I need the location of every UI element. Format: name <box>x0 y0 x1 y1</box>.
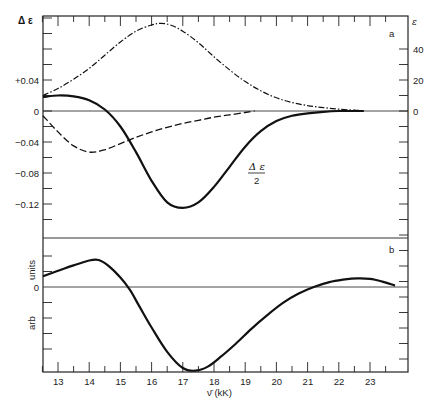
axis-labels: Δ ε ε a b arb units Δ ε 2 ν̄ (kK) 131415… <box>15 15 424 398</box>
x-tick-label: 17 <box>178 376 189 387</box>
right-tick-label-a: 0 <box>413 106 418 117</box>
series-panel-b <box>43 260 395 371</box>
x-axis-title: ν̄ (kK) <box>207 387 232 398</box>
panel-label-b: b <box>389 244 394 255</box>
x-tick-label: 21 <box>303 376 314 387</box>
x-tick-label: 16 <box>147 376 158 387</box>
mcd-chart: Δ ε ε a b arb units Δ ε 2 ν̄ (kK) 131415… <box>0 0 424 402</box>
x-tick-label: 19 <box>240 376 251 387</box>
left-tick-label-b: 0 <box>34 282 39 293</box>
x-tick-label: 14 <box>84 376 95 387</box>
x-tick-label: 15 <box>115 376 126 387</box>
series-dash-dot <box>43 23 364 110</box>
annotation-denominator: 2 <box>254 175 259 186</box>
data-curves <box>43 23 395 370</box>
left-axis-title: Δ ε <box>18 15 33 26</box>
right-axis-title: ε <box>412 17 417 27</box>
x-tick-label: 18 <box>209 376 220 387</box>
x-tick-label: 23 <box>365 376 376 387</box>
x-tick-label: 20 <box>271 376 282 387</box>
left-tick-label-a: 0 <box>34 106 39 117</box>
left-tick-label-a: +0.04 <box>15 75 39 86</box>
right-tick-label-a: 40 <box>413 44 424 55</box>
x-tick-label: 13 <box>53 376 64 387</box>
right-tick-label-a: 20 <box>413 75 424 86</box>
left-tick-label-a: −0.08 <box>15 168 39 179</box>
annotation-numerator: Δ ε <box>248 161 265 172</box>
axis-ticks <box>42 16 408 372</box>
panel-b-units-units: units <box>26 260 37 280</box>
x-tick-label: 22 <box>334 376 345 387</box>
panel-label-a: a <box>389 28 395 39</box>
left-tick-label-a: −0.12 <box>15 199 39 210</box>
series-dashed <box>43 111 255 152</box>
left-tick-label-a: −0.04 <box>15 137 39 148</box>
panel-b-units-arb: arb <box>26 316 37 330</box>
plot-border <box>43 16 408 372</box>
plot-frame <box>43 16 408 372</box>
